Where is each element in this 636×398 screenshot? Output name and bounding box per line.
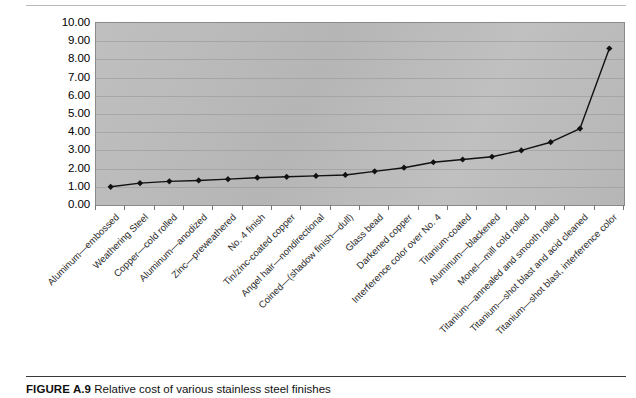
data-point-marker <box>225 176 231 182</box>
data-point-marker <box>372 168 378 174</box>
page-rule-top <box>26 5 626 6</box>
plot-area <box>95 22 625 206</box>
data-point-marker <box>430 159 436 165</box>
y-tick-label: 1.00 <box>40 180 90 191</box>
data-point-marker <box>460 156 466 162</box>
data-point-marker <box>577 125 583 131</box>
data-point-marker <box>108 184 114 190</box>
y-tick-label: 6.00 <box>40 89 90 100</box>
y-tick-label: 4.00 <box>40 126 90 137</box>
data-point-marker <box>137 180 143 186</box>
y-tick-label: 2.00 <box>40 162 90 173</box>
data-point-marker <box>518 147 524 153</box>
data-point-marker <box>313 173 319 179</box>
figure-caption-text: Relative cost of various stainless steel… <box>94 383 331 395</box>
y-tick-label: 7.00 <box>40 71 90 82</box>
data-point-marker <box>342 172 348 178</box>
data-point-marker <box>401 165 407 171</box>
y-tick-label: 8.00 <box>40 53 90 64</box>
data-point-marker <box>606 45 612 51</box>
data-point-marker <box>254 175 260 181</box>
data-point-marker <box>284 174 290 180</box>
data-point-marker <box>548 139 554 145</box>
data-point-marker <box>166 178 172 184</box>
figure-container: 10.009.008.007.006.005.004.003.002.001.0… <box>0 0 636 398</box>
y-axis: 10.009.008.007.006.005.004.003.002.001.0… <box>40 16 90 212</box>
figure-caption: FIGURE A.9 Relative cost of various stai… <box>26 383 331 396</box>
y-tick-label: 9.00 <box>40 35 90 46</box>
data-point-marker <box>196 177 202 183</box>
y-tick-label: 10.00 <box>40 17 90 28</box>
y-tick-label: 5.00 <box>40 108 90 119</box>
y-tick-label: 3.00 <box>40 144 90 155</box>
caption-rule <box>26 376 626 377</box>
series-line-relative-cost <box>96 23 624 205</box>
figure-number: FIGURE A.9 <box>26 383 91 395</box>
x-axis-labels: Aluminum—embossedWeathering SteelCopper—… <box>0 206 636 366</box>
data-point-marker <box>489 154 495 160</box>
